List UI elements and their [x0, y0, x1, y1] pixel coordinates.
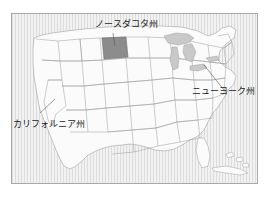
map-frame — [11, 13, 258, 184]
north-dakota-highlight[interactable] — [102, 37, 128, 59]
figure-container: ノースダコタ州 カリフォルニア州 ニューヨーク州 — [0, 0, 270, 202]
bahamas-shape-3 — [242, 163, 249, 167]
bahamas-shape-2 — [236, 157, 243, 162]
us-map-svg — [12, 14, 257, 183]
map-label-north-dakota: ノースダコタ州 — [95, 19, 158, 30]
map-label-california: カリフォルニア州 — [13, 119, 85, 130]
map-label-new-york: ニューヨーク州 — [192, 86, 255, 97]
